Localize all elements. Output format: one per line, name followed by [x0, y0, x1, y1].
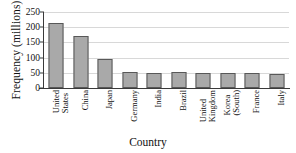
bar [98, 59, 113, 88]
x-axis-title: Country [0, 136, 296, 148]
x-tick-label-slot: India [142, 89, 167, 135]
bar [245, 73, 260, 88]
y-tick-label: 200 [26, 22, 40, 32]
x-tick-label-line: China [80, 90, 90, 110]
bar [269, 74, 284, 88]
bar-slot [216, 12, 241, 88]
x-tick-label: Germany [130, 90, 139, 122]
bar [196, 73, 211, 88]
y-tick-label: 50 [31, 68, 41, 78]
bar-slot [93, 12, 118, 88]
bar [220, 73, 235, 88]
x-tick-label-slot: UnitedKingdom [191, 89, 216, 135]
x-tick-label: Brazil [179, 90, 188, 111]
x-tick-label: Italy [277, 90, 286, 106]
x-tick-label-slot: Germany [118, 89, 143, 135]
x-tick-label: UnitedStates [52, 90, 69, 113]
bar-slot [240, 12, 265, 88]
x-tick-label-slot: UnitedStates [44, 89, 69, 135]
x-tick-label-slot: China [69, 89, 94, 135]
bar [122, 72, 137, 88]
x-tick-label-slot: Korea(South) [216, 89, 241, 135]
x-tick-label: France [252, 90, 261, 113]
x-tick-label: China [81, 90, 90, 110]
y-tick-label: 250 [26, 7, 40, 17]
y-tick-label: 100 [26, 53, 40, 63]
x-tick-label: UnitedKingdom [199, 90, 216, 122]
bar-series [44, 12, 289, 88]
y-tick-label: 0 [35, 83, 40, 93]
x-tick-label-slot: Brazil [167, 89, 192, 135]
x-tick-label-line: India [153, 90, 163, 107]
plot-area: 050100150200250 [44, 12, 289, 88]
x-axis-tick-labels: UnitedStatesChinaJapanGermanyIndiaBrazil… [44, 89, 289, 135]
x-tick-label-slot: Italy [265, 89, 290, 135]
bar-slot [118, 12, 143, 88]
x-tick-label-slot: Japan [93, 89, 118, 135]
bar [73, 36, 88, 88]
x-tick-label-line: Germany [129, 90, 139, 122]
x-tick-label-line: Brazil [178, 90, 188, 111]
x-tick-label: Japan [105, 90, 114, 109]
x-tick-label: Korea(South) [223, 90, 240, 116]
bar-slot [142, 12, 167, 88]
x-tick-label-line: Italy [276, 90, 286, 106]
bar-slot [44, 12, 69, 88]
bar [171, 72, 186, 88]
bar [147, 73, 162, 89]
bar-slot [191, 12, 216, 88]
x-tick-label: India [154, 90, 163, 107]
y-axis-title: Frequency (millions) [10, 0, 22, 102]
bar-slot [167, 12, 192, 88]
bar-chart: Frequency (millions) 050100150200250 Uni… [0, 0, 296, 153]
x-tick-label-line: France [251, 90, 261, 113]
x-tick-label-slot: France [240, 89, 265, 135]
bar [49, 23, 64, 88]
x-tick-label-line: Japan [104, 90, 114, 109]
bar-slot [265, 12, 290, 88]
bar-slot [69, 12, 94, 88]
y-tick-label: 150 [26, 37, 40, 47]
